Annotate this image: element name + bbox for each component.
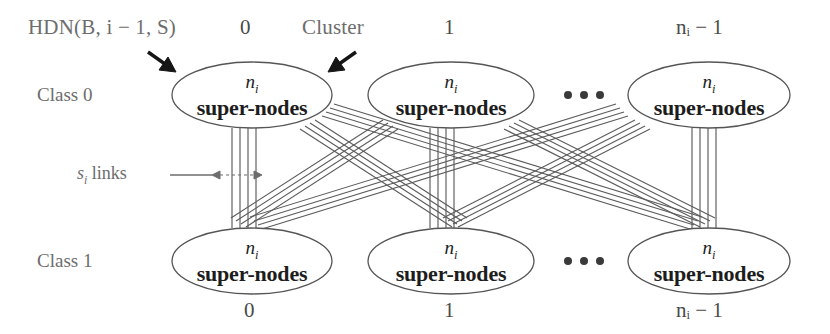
node-caption: super-nodes <box>172 262 332 285</box>
row-label-class-1: Class 1 <box>37 251 92 270</box>
node-class0-cluster-last: ni super-nodes <box>629 72 789 119</box>
node-caption: super-nodes <box>629 96 789 119</box>
bottom-index-1: 1 <box>444 300 455 321</box>
node-class0-cluster-0: ni super-nodes <box>172 72 332 119</box>
cluster-label: Cluster <box>302 17 364 38</box>
ellipsis-class0-row <box>564 91 604 99</box>
links-label: si links <box>77 164 127 186</box>
bottom-index-0: 0 <box>244 300 255 321</box>
node-class1-cluster-0: ni super-nodes <box>172 238 332 285</box>
ellipsis-class1-row <box>564 257 604 265</box>
node-count: ni <box>371 238 531 262</box>
node-class1-cluster-last: ni super-nodes <box>629 238 789 285</box>
hdn-label: HDN(B, i − 1, S) <box>28 17 176 38</box>
node-caption: super-nodes <box>172 96 332 119</box>
arrow-hdn-pointer <box>148 52 176 72</box>
bundle-t0-blast <box>322 104 702 229</box>
node-caption: super-nodes <box>371 262 531 285</box>
row-label-class-0: Class 0 <box>37 85 92 104</box>
bottom-index-last: nᵢ − 1 <box>676 300 723 321</box>
node-caption: super-nodes <box>371 96 531 119</box>
node-count: ni <box>172 238 332 262</box>
top-index-last: nᵢ − 1 <box>676 17 723 38</box>
vertical-bundle-cluster-0 <box>232 128 256 228</box>
node-class1-cluster-1: ni super-nodes <box>371 238 531 285</box>
top-index-1: 1 <box>444 17 455 38</box>
node-count: ni <box>629 238 789 262</box>
node-count: ni <box>371 72 531 96</box>
measure-arrow-right <box>254 171 262 179</box>
links-label-variable: si <box>77 163 87 183</box>
top-index-0: 0 <box>240 17 251 38</box>
node-count: ni <box>629 72 789 96</box>
arrow-cluster-pointer <box>328 52 356 72</box>
links-label-word: links <box>87 163 127 183</box>
measure-arrow-left <box>212 171 220 179</box>
hdn-cluster-diagram: HDN(B, i − 1, S) 0 Cluster 1 nᵢ − 1 Clas… <box>0 0 830 334</box>
node-class0-cluster-1: ni super-nodes <box>371 72 531 119</box>
node-count: ni <box>172 72 332 96</box>
node-caption: super-nodes <box>629 262 789 285</box>
